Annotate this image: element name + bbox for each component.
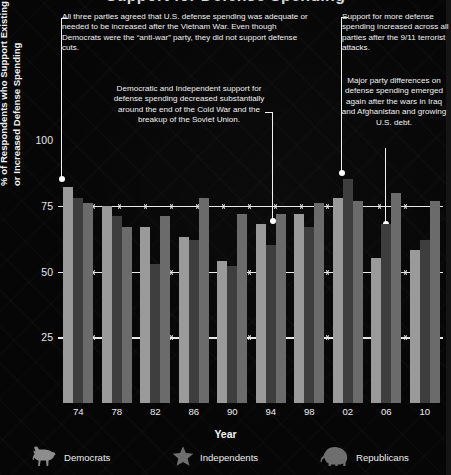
bar-democrats-90[interactable] <box>217 261 227 403</box>
bar-democrats-06[interactable] <box>371 258 381 403</box>
bar-democrats-86[interactable] <box>179 237 189 403</box>
elephant-icon <box>320 445 350 469</box>
plot-area: 10075502574788286909498020610 <box>58 140 443 403</box>
x-tick-label-02: 02 <box>342 406 353 417</box>
bar-group-94 <box>256 214 286 403</box>
bar-republicans-98[interactable] <box>314 203 324 403</box>
bar-group-90 <box>217 214 247 403</box>
x-tick-label-78: 78 <box>111 406 122 417</box>
bar-independents-90[interactable] <box>227 266 237 403</box>
legend: Democrats Independents Republicans <box>0 445 451 475</box>
bar-republicans-82[interactable] <box>160 216 170 403</box>
legend-item-democrats[interactable]: Democrats <box>30 445 110 469</box>
bar-republicans-02[interactable] <box>353 201 363 404</box>
bar-democrats-10[interactable] <box>410 250 420 403</box>
bar-group-10 <box>410 201 440 404</box>
legend-label-republicans: Republicans <box>356 452 409 463</box>
bar-democrats-94[interactable] <box>256 224 266 403</box>
bar-independents-86[interactable] <box>189 240 199 403</box>
star-icon <box>172 445 194 469</box>
annotation-cold-war: Democratic and Independent support for d… <box>104 84 274 126</box>
x-tick-label-86: 86 <box>188 406 199 417</box>
legend-item-independents[interactable]: Independents <box>172 445 258 469</box>
y-tick-label-75: 75 <box>41 200 53 212</box>
x-tick-label-98: 98 <box>304 406 315 417</box>
bar-independents-98[interactable] <box>304 227 314 403</box>
bar-republicans-06[interactable] <box>391 193 401 403</box>
bar-republicans-78[interactable] <box>122 227 132 403</box>
right-edge-strip <box>446 0 451 475</box>
bar-group-86 <box>179 198 209 403</box>
bar-independents-10[interactable] <box>420 240 430 403</box>
bar-republicans-74[interactable] <box>83 203 93 403</box>
bar-group-06 <box>371 193 401 403</box>
chart-canvas: Support for Defense Spending All three p… <box>0 0 451 475</box>
bar-democrats-82[interactable] <box>140 227 150 403</box>
x-tick-label-06: 06 <box>381 406 392 417</box>
legend-label-democrats: Democrats <box>64 452 110 463</box>
chart-title: Support for Defense Spending <box>0 0 451 5</box>
bar-group-74 <box>63 187 93 403</box>
y-tick-label-25: 25 <box>41 331 53 343</box>
annotation-vietnam: All three parties agreed that U.S. defen… <box>62 12 314 54</box>
y-tick-label-50: 50 <box>41 266 53 278</box>
bar-republicans-86[interactable] <box>199 198 209 403</box>
bar-republicans-94[interactable] <box>276 214 286 403</box>
bar-group-82 <box>140 216 170 403</box>
annotation-iraq-afghanistan: Major party differences on defense spend… <box>340 76 448 128</box>
bar-group-02 <box>333 179 363 403</box>
x-axis-label: Year <box>0 428 451 440</box>
bar-democrats-78[interactable] <box>102 206 112 403</box>
x-tick-label-82: 82 <box>150 406 161 417</box>
leader-line-911-elbow <box>341 17 348 18</box>
bar-group-78 <box>102 206 132 403</box>
bar-democrats-98[interactable] <box>294 214 304 403</box>
bar-independents-74[interactable] <box>73 198 83 403</box>
x-tick-label-10: 10 <box>419 406 430 417</box>
bar-independents-94[interactable] <box>266 245 276 403</box>
y-tick-label-100: 100 <box>35 134 53 146</box>
leader-line-cold-war-elbow <box>265 112 273 113</box>
bar-independents-78[interactable] <box>112 216 122 403</box>
bar-independents-82[interactable] <box>150 264 160 403</box>
x-tick-label-90: 90 <box>227 406 238 417</box>
x-tick-label-94: 94 <box>265 406 276 417</box>
leader-line-vietnam-elbow <box>61 18 68 19</box>
x-tick-label-74: 74 <box>73 406 84 417</box>
legend-item-republicans[interactable]: Republicans <box>320 445 409 469</box>
bar-republicans-10[interactable] <box>430 201 440 404</box>
bar-independents-02[interactable] <box>343 179 353 403</box>
bar-independents-06[interactable] <box>381 224 391 403</box>
bar-group-98 <box>294 203 324 403</box>
y-axis-label: % of Respondents who Support Existing or… <box>0 0 23 186</box>
donkey-icon <box>30 445 58 469</box>
bar-democrats-02[interactable] <box>333 198 343 403</box>
legend-label-independents: Independents <box>200 452 258 463</box>
bar-republicans-90[interactable] <box>237 214 247 403</box>
annotation-september-11: Support for more defense spending increa… <box>342 12 450 54</box>
bar-democrats-74[interactable] <box>63 187 73 403</box>
